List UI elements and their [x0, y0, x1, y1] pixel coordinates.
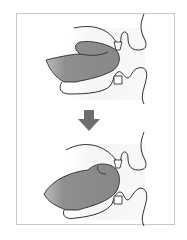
lower-tooth: [114, 76, 122, 84]
down-arrow-icon: [78, 110, 100, 131]
panel-before: [46, 14, 147, 104]
panel-after: [44, 132, 147, 226]
tongue-position-diagram: [0, 0, 187, 240]
lower-tooth: [114, 196, 122, 204]
